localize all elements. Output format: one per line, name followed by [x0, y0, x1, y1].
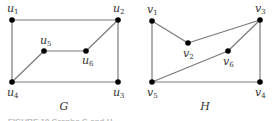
vertex-v2: [185, 40, 191, 46]
vertex-label-u2: u2: [113, 2, 125, 16]
vertex-label-v5: v5: [147, 86, 158, 100]
edge-v2-v3: [188, 20, 260, 43]
vertex-label-v1: v1: [147, 3, 158, 17]
vertex-u6: [83, 48, 89, 54]
vertex-u1: [9, 17, 15, 23]
vertex-label-v3: v3: [255, 2, 266, 16]
graph-label-g: G: [60, 100, 69, 113]
graph-diagram: u1u2u3u4u5u6v1v2v3v4v5v6 G H FIGURE 10 G…: [0, 0, 273, 121]
graph-label-h: H: [199, 100, 210, 113]
figure-caption: FIGURE 10 Graphs G and H.: [8, 117, 115, 121]
vertex-v3: [257, 17, 263, 23]
vertex-v1: [149, 18, 155, 24]
edge-u2-u6: [86, 20, 118, 51]
vertex-u4: [9, 79, 15, 85]
vertex-v4: [257, 79, 263, 85]
vertex-label-u3: u3: [113, 86, 125, 100]
vertex-u3: [115, 79, 121, 85]
vertex-label-v6: v6: [223, 55, 234, 69]
vertex-label-u5: u5: [40, 34, 52, 48]
vertex-v5: [149, 79, 155, 85]
vertex-label-v4: v4: [255, 86, 266, 100]
vertex-label-u6: u6: [82, 54, 94, 68]
edge-u4-u5: [12, 51, 44, 82]
edges: [12, 20, 260, 82]
vertex-label-u4: u4: [7, 86, 19, 100]
edge-v1-v2: [152, 21, 188, 43]
vertex-u5: [41, 48, 47, 54]
vertex-u2: [115, 17, 121, 23]
vertex-v6: [225, 48, 231, 54]
vertex-label-v2: v2: [183, 47, 194, 61]
vertex-label-u1: u1: [7, 2, 19, 16]
